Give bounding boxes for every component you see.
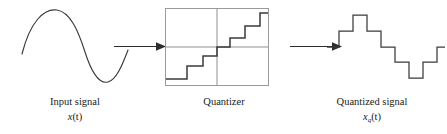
quantized-signal-stage: Quantized signal xq(t) — [297, 0, 447, 134]
quantized-signal-symbol: xq(t) — [297, 111, 447, 126]
input-signal-symbol-arg: (t) — [72, 111, 82, 122]
quantized-signal-symbol-arg: (t) — [371, 111, 381, 122]
quantized-signal-caption: Quantized signal — [297, 96, 447, 108]
quantization-block-diagram: Input signal x(t) Quantizer — [0, 0, 447, 134]
quantized-staircase-path — [327, 15, 445, 78]
staircase-waveform-icon — [297, 0, 447, 95]
quantizer-stage: Quantizer — [150, 0, 298, 134]
staircase-transfer-function-icon — [150, 0, 298, 95]
quantizer-caption: Quantizer — [150, 96, 298, 108]
